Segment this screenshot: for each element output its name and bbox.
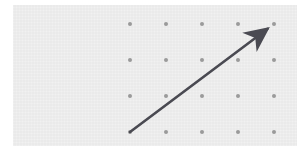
figure-root bbox=[0, 0, 306, 155]
diagonal-arrow bbox=[130, 29, 267, 132]
vector-arrow-layer bbox=[13, 5, 297, 146]
dot-grid-panel bbox=[13, 5, 297, 146]
